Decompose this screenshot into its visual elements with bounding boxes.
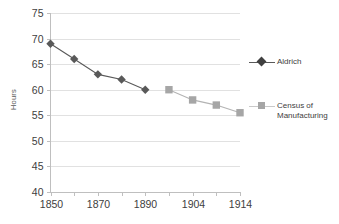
x-tick-label: 1850 <box>40 198 64 210</box>
y-tick-label: 55 <box>32 109 44 121</box>
chart-container: Hours 4045505560657075 18501870189019041… <box>0 0 339 224</box>
data-point-marker <box>70 55 78 63</box>
x-tick-label: 1870 <box>87 198 111 210</box>
y-tick-label: 40 <box>32 186 44 198</box>
data-point-marker <box>165 86 172 93</box>
legend-item-census: Census of Manufacturing <box>249 101 328 121</box>
y-tick-label: 65 <box>32 58 44 70</box>
x-tick-label: 1914 <box>229 198 253 210</box>
legend-label-aldrich: Aldrich <box>277 57 301 67</box>
x-axis-tick-labels: 18501870189019041914 <box>40 198 253 210</box>
series-line <box>51 44 146 90</box>
data-point-marker <box>213 101 220 108</box>
data-point-marker <box>141 86 149 94</box>
data-point-marker <box>117 75 125 83</box>
y-tick-label: 45 <box>32 160 44 172</box>
data-point-marker <box>236 109 243 116</box>
legend-key-square-icon <box>249 101 275 112</box>
y-tick-label: 50 <box>32 135 44 147</box>
series-line <box>169 90 240 113</box>
x-tick-label: 1904 <box>182 198 206 210</box>
x-tick-label: 1890 <box>134 198 158 210</box>
data-series-layer <box>46 39 243 116</box>
y-tick-label: 60 <box>32 84 44 96</box>
legend-item-aldrich: Aldrich <box>249 57 301 68</box>
y-tick-label: 75 <box>32 7 44 19</box>
legend-label-census: Census of Manufacturing <box>277 101 328 121</box>
y-axis-tick-labels: 4045505560657075 <box>32 7 44 198</box>
y-tick-label: 70 <box>32 33 44 45</box>
legend-key-diamond-icon <box>249 57 275 68</box>
data-point-marker <box>189 96 196 103</box>
data-point-marker <box>46 39 54 47</box>
data-point-marker <box>94 70 102 78</box>
